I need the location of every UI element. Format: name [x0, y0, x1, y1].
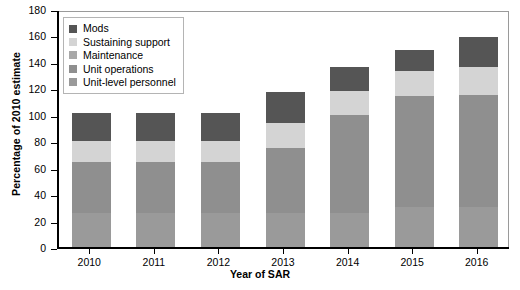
- legend-item-label: Unit operations: [83, 64, 154, 75]
- x-axis-tick-label: 2010: [59, 256, 119, 268]
- bar-segment[interactable]: [459, 67, 498, 95]
- bar-segment[interactable]: [395, 96, 434, 207]
- y-axis-tick-label: 100: [28, 110, 46, 122]
- legend-swatch-icon: [69, 51, 77, 59]
- x-axis-title: Year of SAR: [0, 268, 520, 280]
- x-axis-tick-mark: [154, 249, 155, 254]
- bar-segment[interactable]: [395, 50, 434, 71]
- bar-segment[interactable]: [459, 207, 498, 247]
- legend-item: Unit operations: [69, 62, 176, 75]
- bar-segment[interactable]: [72, 213, 111, 247]
- bar-segment[interactable]: [201, 162, 240, 212]
- bar-segment[interactable]: [395, 207, 434, 247]
- bar-stack[interactable]: [395, 50, 434, 247]
- y-axis-tick-label: 0: [40, 242, 46, 254]
- bar-segment[interactable]: [266, 123, 305, 148]
- x-axis-tick-mark: [283, 249, 284, 254]
- legend-item: Maintenance: [69, 49, 176, 62]
- y-axis-tick-mark: [51, 249, 57, 250]
- y-axis-tick-label: 40: [34, 189, 46, 201]
- x-axis-tick-mark: [477, 249, 478, 254]
- chart-figure: Percentage of 2010 estimate Year of SAR …: [0, 0, 520, 290]
- x-axis-tick-label: 2012: [188, 256, 248, 268]
- bar-segment[interactable]: [136, 113, 175, 141]
- legend: ModsSustaining supportMaintenanceUnit op…: [63, 17, 184, 94]
- bar-stack[interactable]: [72, 113, 111, 247]
- legend-item: Mods: [69, 22, 176, 35]
- bar-segment[interactable]: [266, 148, 305, 213]
- y-axis-title: Percentage of 2010 estimate: [10, 14, 22, 234]
- bar-stack[interactable]: [201, 113, 240, 247]
- bar-segment[interactable]: [72, 162, 111, 212]
- bar-segment[interactable]: [136, 213, 175, 247]
- bar-segment[interactable]: [136, 141, 175, 162]
- legend-item-label: Sustaining support: [83, 37, 170, 48]
- bar-segment[interactable]: [330, 91, 369, 115]
- y-axis-tick-label: 80: [34, 136, 46, 148]
- bar-segment[interactable]: [459, 95, 498, 207]
- y-axis-tick-label: 120: [28, 83, 46, 95]
- bar-stack[interactable]: [330, 67, 369, 247]
- bar-segment[interactable]: [72, 141, 111, 162]
- y-axis-tick-label: 160: [28, 30, 46, 42]
- x-axis-tick-mark: [89, 249, 90, 254]
- bar-stack[interactable]: [136, 113, 175, 247]
- x-axis-tick-label: 2016: [447, 256, 507, 268]
- x-axis-tick-mark: [412, 249, 413, 254]
- legend-item: Unit-level personnel: [69, 76, 176, 89]
- bar-segment[interactable]: [201, 141, 240, 162]
- legend-swatch-icon: [69, 78, 77, 86]
- legend-swatch-icon: [69, 38, 77, 46]
- legend-item-label: Maintenance: [83, 50, 143, 61]
- y-axis-tick-label: 140: [28, 57, 46, 69]
- bar-segment[interactable]: [330, 213, 369, 247]
- legend-item-label: Unit-level personnel: [83, 77, 176, 88]
- bar-segment[interactable]: [72, 113, 111, 141]
- bar-segment[interactable]: [266, 92, 305, 122]
- bar-segment[interactable]: [201, 213, 240, 247]
- x-axis-tick-label: 2014: [318, 256, 378, 268]
- bar-segment[interactable]: [136, 162, 175, 212]
- y-axis-tick-label: 20: [34, 216, 46, 228]
- legend-swatch-icon: [69, 25, 77, 33]
- legend-item: Sustaining support: [69, 35, 176, 48]
- y-axis-tick-label: 180: [28, 4, 46, 16]
- bar-stack[interactable]: [266, 92, 305, 247]
- bar-segment[interactable]: [395, 71, 434, 96]
- legend-item-label: Mods: [83, 23, 109, 34]
- x-axis-tick-label: 2011: [124, 256, 184, 268]
- bar-segment[interactable]: [459, 37, 498, 67]
- legend-swatch-icon: [69, 65, 77, 73]
- bar-stack[interactable]: [459, 37, 498, 247]
- bar-segment[interactable]: [330, 67, 369, 91]
- x-axis-tick-mark: [218, 249, 219, 254]
- bar-segment[interactable]: [330, 115, 369, 213]
- bar-segment[interactable]: [201, 113, 240, 141]
- y-axis-tick-label: 60: [34, 163, 46, 175]
- x-axis-tick-label: 2015: [382, 256, 442, 268]
- x-axis-tick-mark: [348, 249, 349, 254]
- bar-segment[interactable]: [266, 213, 305, 247]
- x-axis-tick-label: 2013: [253, 256, 313, 268]
